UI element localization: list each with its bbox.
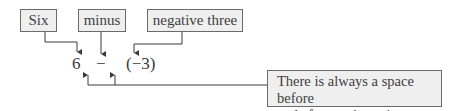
label-minus-text: minus	[84, 12, 121, 29]
label-minus: minus	[78, 9, 126, 32]
label-negative-three-text: negative three	[153, 12, 238, 29]
six-connector-arrow	[45, 31, 77, 52]
label-six: Six	[20, 9, 57, 32]
label-six-text: Six	[28, 12, 48, 29]
note-box: There is always a space before and after…	[267, 70, 442, 107]
operand-left: 6	[72, 54, 81, 74]
label-negative-three: negative three	[147, 9, 243, 32]
operator-minus: −	[96, 54, 106, 74]
operand-right: (−3)	[126, 54, 155, 74]
note-line-1: There is always a space before	[277, 73, 441, 107]
note-line-2: and after a minus sign.	[277, 107, 441, 111]
negative-three-connector-arrow	[134, 31, 182, 53]
